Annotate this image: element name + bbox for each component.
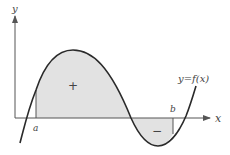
y-axis-label: y bbox=[11, 3, 18, 14]
x-axis-label: x bbox=[215, 112, 222, 125]
positive-sign: + bbox=[68, 79, 78, 93]
curve-label: y=f(x) bbox=[177, 73, 209, 84]
negative-sign: − bbox=[152, 124, 162, 138]
upper-bound-label: b bbox=[170, 104, 176, 114]
lower-bound-label: a bbox=[33, 123, 38, 133]
positive-area-region bbox=[36, 50, 131, 118]
definite-integral-diagram: y x a b y=f(x) + − bbox=[0, 0, 230, 155]
